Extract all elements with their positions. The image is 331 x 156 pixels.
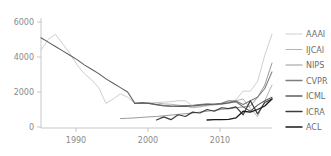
legend-label-acl: ACL — [306, 123, 322, 132]
legend-label-cvpr: CVPR — [306, 77, 328, 86]
line-chart-figure: 6000 4000 2000 0 1990 2000 2010 AAAIIJCA… — [0, 0, 331, 156]
legend-label-aaai: AAAI — [306, 30, 325, 39]
y-tick-marks — [37, 22, 41, 127]
x-tick-label-2010: 2010 — [210, 136, 230, 145]
series-line-aaai — [41, 34, 272, 107]
chart-legend: AAAIIJCAINIPSCVPRICMLICRAACL — [286, 30, 328, 132]
y-tick-label-0: 0 — [29, 123, 34, 132]
legend-label-icml: ICML — [306, 92, 326, 101]
series-line-icra — [157, 99, 273, 120]
x-tick-marks — [76, 128, 220, 132]
y-tick-label-2000: 2000 — [14, 88, 34, 97]
y-tick-label-4000: 4000 — [14, 53, 34, 62]
legend-label-nips: NIPS — [306, 61, 324, 70]
x-tick-label-1990: 1990 — [66, 136, 86, 145]
series-layer — [41, 34, 272, 120]
legend-label-ijcai: IJCAI — [306, 46, 324, 55]
y-tick-label-6000: 6000 — [14, 18, 34, 27]
legend-label-icra: ICRA — [306, 108, 325, 117]
chart-svg: 6000 4000 2000 0 1990 2000 2010 AAAIIJCA… — [0, 0, 331, 156]
x-tick-label-2000: 2000 — [138, 136, 158, 145]
